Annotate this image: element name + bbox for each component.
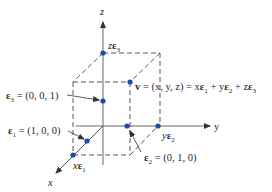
points (70, 50, 160, 157)
e2-point (124, 123, 129, 128)
axes (56, 22, 210, 173)
e3-point (100, 98, 105, 103)
e1-label: ε1 = (1, 0, 0) (8, 125, 61, 139)
ye2-label: yε2 (161, 130, 175, 144)
y-axis-label: y (214, 121, 220, 132)
ze3-label: zε3 (107, 40, 121, 54)
e1-point (84, 138, 89, 143)
ze3-point (100, 50, 105, 55)
e3-label: ε3 = (0, 0, 1) (6, 90, 59, 104)
e2-label: ε2 = (0, 1, 0) (144, 152, 197, 166)
x-axis-label: x (47, 177, 53, 188)
xe1-label: xε1 (72, 160, 86, 174)
basis-vector-diagram: z y x zε3 ε3 = (0, 0, 1) ε1 = (1, 0, 0) … (0, 0, 272, 192)
v-point (127, 79, 132, 84)
vector-equation: v = (x, y, z) = xε1 + yε2 + zε3 (135, 81, 257, 95)
xe1-point (70, 152, 75, 157)
z-axis-label: z (99, 6, 104, 17)
ye2-point (155, 123, 160, 128)
